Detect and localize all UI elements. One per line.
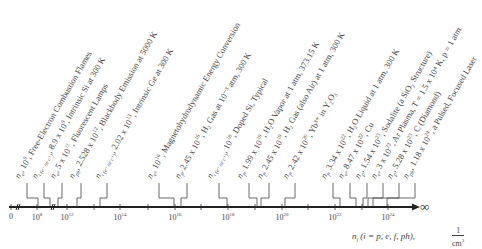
leader-line <box>350 183 356 207</box>
tick-base: 10 <box>114 213 122 222</box>
tick-exponent: 22 <box>337 212 342 217</box>
tick-label: 1020 <box>276 212 289 222</box>
density-scale-diagram: ne, 109, Free-Electron Combustion Flames… <box>0 0 482 249</box>
tick-base: 10 <box>61 213 69 222</box>
tick-base: 10 <box>169 213 177 222</box>
tick-label: 1016 <box>169 212 182 222</box>
unit-numerator: 1 <box>452 226 464 236</box>
leader-line <box>219 183 227 207</box>
tick-exponent: 20 <box>284 212 289 217</box>
tick-exponent: 16 <box>177 212 182 217</box>
leader-line <box>387 183 415 207</box>
tick-base: 10 <box>222 213 230 222</box>
tick-exponent: 24 <box>390 212 395 217</box>
leader-line <box>373 183 399 207</box>
tick-base: 10 <box>32 213 40 222</box>
leader-line <box>58 183 62 207</box>
leader-line <box>77 183 81 207</box>
leader-line <box>44 183 50 207</box>
tick-base: 0 <box>9 212 13 221</box>
tick-base: 10 <box>276 213 284 222</box>
infinity-symbol: ∞ <box>420 199 429 215</box>
tick-label: 108 <box>32 212 43 222</box>
tick-label: 1022 <box>329 212 342 222</box>
leader-line <box>368 183 383 207</box>
tick-label: 1024 <box>382 212 395 222</box>
leader-line <box>100 183 107 207</box>
tick-label: 1012 <box>61 212 74 222</box>
axis-unit: 1 cm3 <box>452 226 464 248</box>
tick-label: 1014 <box>114 212 127 222</box>
tick-base: 10 <box>382 213 390 222</box>
unit-den-text: cm <box>452 239 462 248</box>
number-line <box>9 204 420 211</box>
tick-exponent: 8 <box>40 212 43 217</box>
leader-line <box>159 183 174 207</box>
leader-line <box>363 183 367 207</box>
leader-line <box>333 183 340 207</box>
unit-denominator: cm3 <box>452 236 464 248</box>
unit-den-exp: 3 <box>462 238 465 243</box>
tick-base: 10 <box>329 213 337 222</box>
tick-exponent: 18 <box>230 212 235 217</box>
leader-line <box>285 183 295 207</box>
tick-exponent: 14 <box>122 212 127 217</box>
axis-title-rest: (i = p, e, f, ph), <box>358 231 415 241</box>
axis-arrow-icon <box>412 204 420 211</box>
tick-exponent: 12 <box>69 212 74 217</box>
tick-label: 1018 <box>222 212 235 222</box>
axis-title: ni (i = p, e, f, ph), <box>352 231 415 243</box>
tick-label: 0 <box>9 212 13 221</box>
leader-lines <box>27 183 415 207</box>
leader-line <box>261 183 269 207</box>
leader-line <box>181 183 187 207</box>
leader-line <box>27 183 38 207</box>
leader-line <box>249 183 257 207</box>
